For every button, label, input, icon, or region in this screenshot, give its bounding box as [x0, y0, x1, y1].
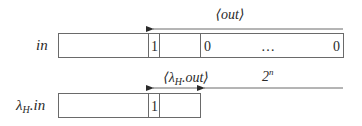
top-row-label: in	[36, 37, 48, 53]
bottom-register: 1	[59, 94, 201, 118]
top-arrow-label: ⟨out⟩	[216, 7, 245, 22]
bottom-bit-one: 1	[151, 99, 158, 114]
long-arrow-label: 2n	[262, 67, 274, 84]
top-bit-one: 1	[151, 39, 158, 54]
top-zero-left: 0	[204, 39, 211, 54]
short-arrow-label: ⟨λH.out⟩	[163, 70, 209, 87]
bottom-row-label: λH.in	[15, 97, 45, 115]
bottom-arrows: ⟨λH.out⟩ 2n	[153, 67, 343, 88]
diagram-canvas: ⟨out⟩ in 1 0 … 0 ⟨λH.out⟩ 2n λH.in 1	[0, 0, 362, 126]
top-ellipsis: …	[261, 39, 275, 54]
top-zero-right: 0	[333, 39, 340, 54]
top-arrow: ⟨out⟩	[153, 7, 343, 29]
top-register: 1 0 … 0	[59, 34, 344, 58]
